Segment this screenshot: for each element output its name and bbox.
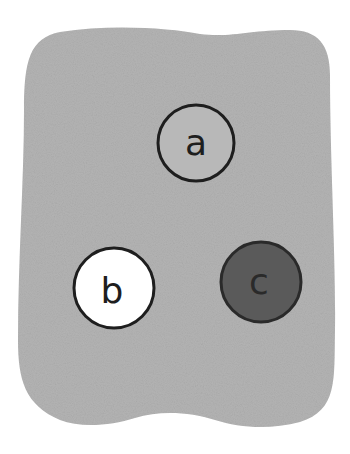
circle-b: b [74,248,154,328]
diagram-canvas: a b c [0,0,350,454]
circle-a: a [158,105,234,181]
circle-a-label: a [185,122,207,163]
diagram-svg: a b c [0,0,350,454]
circle-c-label: c [249,261,269,302]
circle-c: c [221,242,301,322]
circle-b-label: b [101,270,124,311]
region-blob [18,28,335,428]
